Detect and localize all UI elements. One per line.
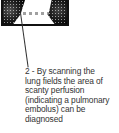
perfusion-scan-image	[1, 0, 69, 26]
mediastinum-shadow	[23, 12, 49, 15]
figure-caption: 2 - By scanning the lung fields the area…	[25, 67, 119, 125]
caption-line: diagnosed	[25, 115, 119, 125]
